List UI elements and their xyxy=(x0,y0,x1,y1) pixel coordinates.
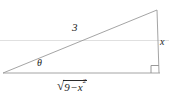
hypotenuse-label: 3 xyxy=(72,22,78,33)
triangle-vertical-line xyxy=(157,10,159,73)
radical-expression: √ 9−x2 xyxy=(57,80,87,93)
radicand: 9−x2 xyxy=(63,80,87,93)
radicand-operator: − xyxy=(70,81,78,93)
triangle-hypotenuse-line xyxy=(3,10,157,73)
radicand-number: 9 xyxy=(64,81,70,93)
triangle-figure: 3 θ x √ 9−x2 xyxy=(0,0,169,103)
angle-theta-label: θ xyxy=(37,58,42,68)
adjacent-side-label: √ 9−x2 xyxy=(57,80,87,93)
radicand-exponent: 2 xyxy=(83,77,87,85)
radical-sign-icon: √ xyxy=(57,79,64,92)
opposite-side-label: x xyxy=(160,37,164,47)
right-angle-marker-icon xyxy=(151,66,159,74)
